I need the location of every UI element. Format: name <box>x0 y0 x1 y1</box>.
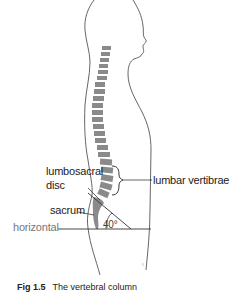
lumbar-bracket <box>112 166 123 195</box>
caption-number: Fig 1.5 <box>17 282 46 292</box>
back-outline <box>85 0 100 275</box>
caption-text: The vertebral column <box>53 282 138 292</box>
lumbosacral-disc-label: lumbosacral disc <box>46 164 103 192</box>
body-silhouette-diagram <box>0 0 236 298</box>
front-outline <box>128 0 151 270</box>
lumbar-vertebrae-label: lumbar vertibrae <box>153 174 229 186</box>
angle-label: 40° <box>103 219 118 230</box>
sacrum-label: sacrum <box>50 204 85 216</box>
vertebral-column-figure: lumbosacral disc lumbar vertibrae sacrum… <box>0 0 236 298</box>
lumbosacral-label-line2: disc <box>46 178 103 192</box>
lumbosacral-label-line1: lumbosacral <box>46 164 103 178</box>
horizontal-label: horizontal <box>13 221 59 233</box>
figure-caption: Fig 1.5The vertebral column <box>17 282 137 292</box>
